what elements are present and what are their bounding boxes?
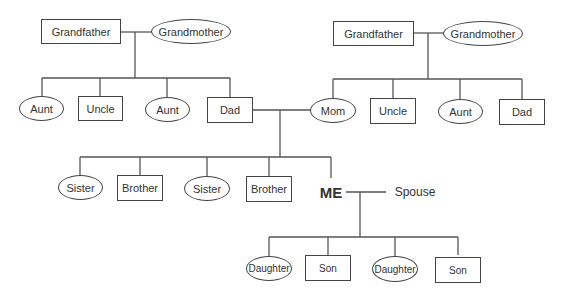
son-2: Son	[435, 257, 481, 283]
maternal-aunt: Aunt	[438, 99, 483, 124]
paternal-uncle: Uncle	[78, 96, 123, 121]
maternal-dad: Dad	[499, 99, 545, 125]
sister-2: Sister	[184, 176, 230, 201]
son-1: Son	[305, 255, 351, 281]
brother-1: Brother	[117, 175, 163, 201]
sister-1: Sister	[58, 175, 103, 200]
paternal-grandmother: Grandmother	[151, 19, 231, 44]
daughter-2: Daughter	[372, 256, 418, 282]
me-label: ME	[316, 182, 346, 202]
spouse-label: Spouse	[393, 182, 437, 202]
brother-2: Brother	[246, 176, 292, 202]
mom: Mom	[310, 98, 356, 123]
dad: Dad	[207, 97, 253, 123]
maternal-grandfather: Grandfather	[333, 21, 414, 46]
maternal-grandmother: Grandmother	[443, 21, 523, 46]
daughter-1: Daughter	[246, 256, 292, 281]
maternal-uncle: Uncle	[370, 98, 416, 124]
paternal-aunt-2: Aunt	[145, 97, 190, 122]
paternal-aunt-1: Aunt	[19, 96, 64, 121]
paternal-grandfather: Grandfather	[41, 19, 121, 44]
